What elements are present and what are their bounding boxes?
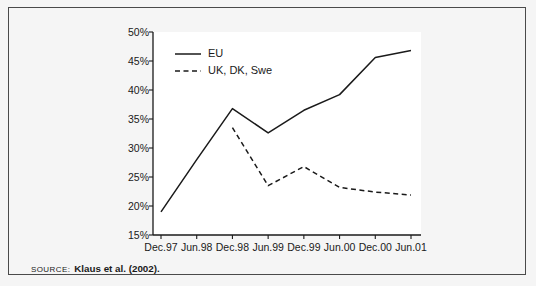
y-tick-label: 40% — [128, 85, 149, 96]
x-tick-label: Dec.00 — [359, 241, 392, 254]
series-line-uk-dk-swe — [232, 128, 411, 195]
source-label: SOURCE: — [31, 265, 70, 274]
x-tick-label: Jun.00 — [324, 241, 356, 254]
x-tick-label: Dec.98 — [216, 241, 249, 254]
legend-label: UK, DK, Swe — [208, 64, 272, 77]
y-tick-label: 20% — [128, 201, 149, 212]
figure-container: 15%20%25%30%35%40%45%50% Dec.97Jun.98Dec… — [0, 0, 536, 286]
y-tick-label: 25% — [128, 172, 149, 183]
legend-label: EU — [208, 47, 223, 60]
legend-item: UK, DK, Swe — [175, 63, 272, 78]
legend-swatch-dashed-icon — [175, 66, 201, 76]
y-tick-label: 50% — [128, 27, 149, 38]
source-citation: Klaus et al. (2002). — [74, 263, 160, 274]
y-tick-label: 45% — [128, 56, 149, 67]
y-tick-label: 30% — [128, 143, 149, 154]
chart-legend: EUUK, DK, Swe — [175, 46, 272, 80]
figure-frame: 15%20%25%30%35%40%45%50% Dec.97Jun.98Dec… — [8, 7, 526, 275]
x-tick-label: Jun.01 — [395, 241, 427, 254]
x-tick-label: Dec.97 — [144, 241, 177, 254]
source-note: SOURCE: Klaus et al. (2002). — [31, 263, 160, 274]
y-axis-labels: 15%20%25%30%35%40%45%50% — [113, 32, 149, 235]
x-axis-labels: Dec.97Jun.98Dec.98Jun.99Dec.99Jun.00Dec.… — [153, 241, 423, 255]
x-tick-label: Jun.98 — [181, 241, 213, 254]
legend-swatch-solid-icon — [175, 49, 201, 59]
x-tick-label: Jun.99 — [252, 241, 284, 254]
y-tick-label: 35% — [128, 114, 149, 125]
legend-item: EU — [175, 46, 272, 61]
y-tick-label: 15% — [128, 230, 149, 241]
x-tick-label: Dec.99 — [287, 241, 320, 254]
